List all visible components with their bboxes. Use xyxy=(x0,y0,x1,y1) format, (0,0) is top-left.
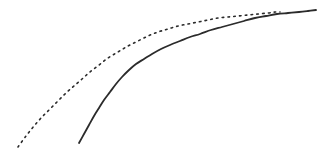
plot-background xyxy=(0,0,331,153)
line-chart-canvas xyxy=(0,0,331,153)
figure-container xyxy=(0,0,331,153)
